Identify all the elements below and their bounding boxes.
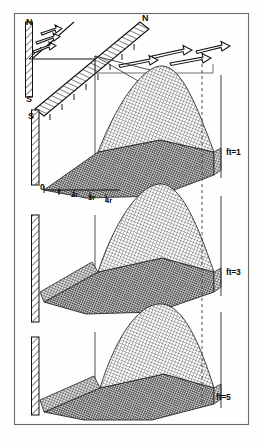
panel-label-ft1: ft=1 bbox=[226, 148, 241, 157]
vector-arrow-icon bbox=[196, 42, 230, 54]
axis-tick-label-r: r bbox=[58, 188, 61, 196]
mesh-surface-icon bbox=[100, 304, 214, 388]
panel-label-ft5: ft=5 bbox=[216, 393, 231, 402]
vector-arrow-icon bbox=[36, 33, 60, 44]
hatched-wall-icon bbox=[32, 215, 40, 322]
vector-arrow-icon bbox=[119, 56, 158, 68]
panel-label-ft3: ft=3 bbox=[226, 268, 241, 277]
mesh-surface-icon bbox=[44, 140, 214, 198]
inset-north-label: N bbox=[26, 18, 33, 27]
vector-arrow-icon bbox=[170, 54, 211, 66]
inset-south-label: S bbox=[26, 95, 32, 104]
main-vector-arrows bbox=[119, 42, 230, 68]
main-south-label: S bbox=[28, 112, 34, 121]
figure-container: N S N S 0 r 2r 3r 4r ft=1 ft=3 ft=5 bbox=[0, 0, 264, 447]
mesh-surface-icon bbox=[98, 66, 214, 152]
hatched-wall-icon bbox=[32, 110, 40, 185]
axis-tick-label-3r: 3r bbox=[88, 194, 95, 202]
mesh-surface-icon bbox=[214, 148, 221, 175]
mesh-surface-panel-2 bbox=[40, 184, 221, 314]
inset-vector-arrows bbox=[33, 25, 62, 53]
reference-lines bbox=[202, 58, 221, 408]
axis-origin-label: 0 bbox=[40, 183, 45, 192]
hatched-wall-icon bbox=[32, 337, 40, 415]
vector-arrow-icon bbox=[41, 25, 62, 35]
diagram-canvas bbox=[0, 0, 264, 447]
main-north-label: N bbox=[142, 14, 149, 23]
panel-walls bbox=[32, 110, 40, 415]
vector-arrow-icon bbox=[152, 46, 192, 59]
axis-tick-label-4r: 4r bbox=[105, 197, 112, 205]
mesh-surface-panel-3 bbox=[40, 304, 221, 420]
mesh-surface-icon bbox=[214, 268, 221, 292]
axis-tick-label-2r: 2r bbox=[71, 191, 78, 199]
